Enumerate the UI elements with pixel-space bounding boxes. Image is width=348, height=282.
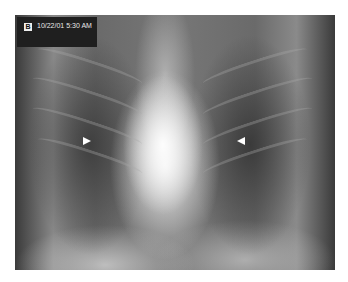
arrowhead-left-icon [237,137,245,145]
image-label: B 10/22/01 5:30 AM [17,17,97,47]
chest-xray-image [15,15,335,270]
arrowhead-right-icon [83,137,91,145]
timestamp: 10/22/01 5:30 AM [37,22,92,29]
panel-letter: B [24,23,32,31]
